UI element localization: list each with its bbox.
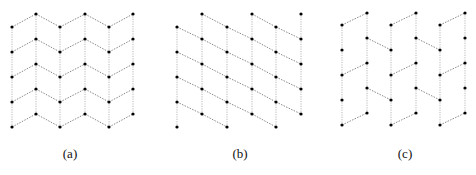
diagonal-edge: [252, 14, 276, 27]
lattice-node: [274, 50, 277, 53]
lattice-node: [58, 25, 61, 28]
lattice-node: [225, 25, 228, 28]
lattice-node: [463, 11, 466, 14]
zigzag-edge: [36, 39, 60, 52]
zigzag-edge: [12, 64, 36, 77]
lattice-node: [10, 125, 13, 128]
zigzag-edge: [85, 39, 109, 52]
lattice-node: [83, 112, 86, 115]
lattice-node: [438, 48, 441, 51]
lattice-node: [200, 62, 203, 65]
zigzag-edge: [60, 114, 85, 127]
lattice-node: [389, 23, 392, 26]
lattice-node: [463, 86, 466, 89]
zigzag-edge: [36, 64, 60, 77]
pair-edge: [342, 63, 367, 75]
diagonal-edge: [252, 39, 276, 52]
lattice-node: [299, 112, 302, 115]
lattice-node: [463, 36, 466, 39]
lattice-node: [225, 125, 228, 128]
lattice-node: [299, 12, 302, 15]
lattice-node: [414, 36, 417, 39]
pair-edge: [342, 13, 367, 25]
lattice-node: [438, 23, 441, 26]
lattice-node: [131, 87, 134, 90]
lattice-node: [175, 75, 178, 78]
lattice-node: [340, 123, 343, 126]
lattice-node: [299, 37, 302, 40]
lattice-node: [389, 73, 392, 76]
zigzag-edge: [36, 14, 60, 27]
lattice-node: [340, 23, 343, 26]
lattice-node: [438, 123, 441, 126]
lattice-node: [175, 125, 178, 128]
lattice-node: [175, 25, 178, 28]
lattice-node: [438, 98, 441, 101]
lattice-node: [414, 61, 417, 64]
diagonal-edge: [276, 27, 301, 39]
lattice-node: [200, 37, 203, 40]
zigzag-edge: [12, 89, 36, 102]
zigzag-edge: [60, 89, 85, 102]
zigzag-edge: [109, 89, 133, 102]
diagonal-edge: [276, 52, 301, 64]
lattice-node: [83, 37, 86, 40]
lattice-node: [389, 123, 392, 126]
lattice-node: [340, 48, 343, 51]
diagonal-edge: [227, 52, 252, 64]
diagonal-edge: [177, 77, 202, 89]
zigzag-edge: [60, 14, 85, 27]
diagonal-edge: [227, 102, 252, 114]
diagonal-edge: [227, 27, 252, 39]
diagonal-edge: [252, 89, 276, 102]
pair-edge: [342, 113, 367, 125]
lattice-node: [340, 73, 343, 76]
lattice-node: [131, 112, 134, 115]
pair-edge: [440, 13, 465, 25]
diagonal-edge: [252, 114, 276, 127]
diagonal-edge: [202, 114, 227, 127]
lattice-node: [389, 98, 392, 101]
lattice-node: [200, 112, 203, 115]
diagonal-edge: [276, 102, 301, 114]
panel-label-b: (b): [232, 146, 247, 162]
lattice-node: [83, 87, 86, 90]
diagonal-edge: [276, 77, 301, 89]
zigzag-edge: [85, 114, 109, 127]
lattice-node: [463, 111, 466, 114]
lattice-node: [34, 87, 37, 90]
lattice-node: [389, 48, 392, 51]
zigzag-edge: [60, 64, 85, 77]
lattice-node: [200, 12, 203, 15]
lattice-node: [83, 62, 86, 65]
zigzag-edge: [60, 39, 85, 52]
lattice-node: [250, 112, 253, 115]
pair-edge: [416, 38, 440, 50]
lattice-node: [274, 125, 277, 128]
pair-edge: [391, 63, 416, 75]
pair-edge: [391, 13, 416, 25]
lattice-node: [58, 100, 61, 103]
lattice-node: [58, 75, 61, 78]
lattice-node: [225, 50, 228, 53]
pair-edge: [391, 113, 416, 125]
lattice-node: [299, 87, 302, 90]
pair-edge: [416, 88, 440, 100]
lattice-node: [414, 86, 417, 89]
lattice-node: [131, 37, 134, 40]
diagonal-edge: [202, 89, 227, 102]
lattice-node: [83, 12, 86, 15]
pair-edge: [367, 88, 391, 100]
lattice-node: [250, 37, 253, 40]
lattice-node: [340, 98, 343, 101]
lattice-node: [250, 87, 253, 90]
lattice-node: [274, 25, 277, 28]
lattice-node: [10, 50, 13, 53]
lattice-node: [250, 62, 253, 65]
lattice-node: [274, 100, 277, 103]
lattice-node: [365, 11, 368, 14]
zigzag-edge: [36, 114, 60, 127]
lattice-node: [131, 62, 134, 65]
zigzag-edge: [12, 39, 36, 52]
lattice-node: [414, 11, 417, 14]
